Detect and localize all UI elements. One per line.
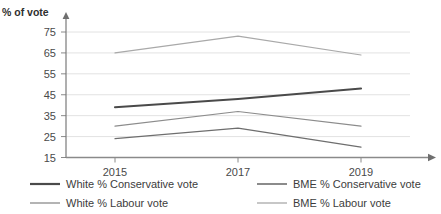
legend-item-bme-labour[interactable]: BME % Labour vote [257, 197, 391, 209]
legend-item-white-labour[interactable]: White % Labour vote [30, 197, 168, 209]
y-axis-tick-label: 45 [44, 89, 56, 101]
legend-label: White % Conservative vote [66, 178, 198, 190]
chart-container: % of vote 15253545556575 201520172019 Wh… [0, 0, 441, 214]
y-axis-tick-label: 15 [44, 152, 56, 164]
legend-label: BME % Conservative vote [293, 178, 421, 190]
x-axis-arrowhead [428, 154, 436, 161]
y-axis-arrowhead [63, 12, 70, 19]
legend-item-bme-conservative[interactable]: BME % Conservative vote [257, 178, 421, 190]
legend-swatch-icon [30, 198, 60, 208]
y-axis-tick-label: 55 [44, 68, 56, 80]
y-axis-tick-labels: 15253545556575 [44, 26, 56, 164]
series-line [115, 111, 361, 126]
series-line [115, 36, 361, 55]
legend-swatch-icon [257, 179, 287, 189]
legend-swatch-icon [30, 179, 60, 189]
y-axis-tick-label: 35 [44, 110, 56, 122]
series-line [115, 88, 361, 107]
series-line [115, 128, 361, 147]
legend-swatch-icon [257, 198, 287, 208]
y-axis-tick-label: 65 [44, 47, 56, 59]
y-axis-ticks [61, 32, 66, 158]
legend-label: BME % Labour vote [293, 197, 391, 209]
legend-label: White % Labour vote [66, 197, 168, 209]
y-axis-tick-label: 75 [44, 26, 56, 38]
legend-item-white-conservative[interactable]: White % Conservative vote [30, 178, 198, 190]
y-axis-tick-label: 25 [44, 131, 56, 143]
chart-legend: White % Conservative vote BME % Conserva… [0, 176, 441, 214]
